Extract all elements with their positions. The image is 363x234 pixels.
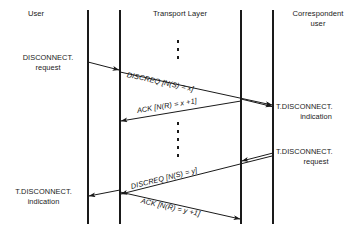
- column-header-user: User: [8, 9, 64, 18]
- arrow-discreq-y: [121, 156, 272, 194]
- column-header-correspondent-user-line2: user: [278, 19, 358, 28]
- primitive-t-disconnect-indication-right-line2: indication: [276, 112, 356, 121]
- ellipsis-middle: [177, 122, 180, 157]
- primitive-t-disconnect-request-right-line2: request: [276, 157, 356, 166]
- primitive-disconnect-request-line2: request: [10, 63, 86, 72]
- arrow-t-disconnect-indication-left: [89, 190, 120, 196]
- column-header-transport-layer: Transport Layer: [140, 9, 220, 18]
- arrow-disconnect-request: [88, 62, 119, 70]
- primitive-t-disconnect-indication-right-line1: T.DISCONNECT.: [276, 102, 333, 111]
- primitive-t-disconnect-indication-left-line2: indication: [1, 197, 86, 206]
- arrow-t-disconnect-indication: [241, 99, 272, 107]
- primitive-t-disconnect-request-right-line1: T.DISCONNECT.: [276, 147, 333, 156]
- column-header-correspondent-user-line1: Correspondent: [278, 9, 358, 18]
- sequence-diagram: User Transport Layer Correspondent user …: [0, 0, 363, 234]
- ellipsis-top: [177, 40, 180, 59]
- primitive-t-disconnect-indication-left-line1: T.DISCONNECT.: [1, 187, 86, 196]
- primitive-disconnect-request-line1: DISCONNECT.: [10, 53, 86, 62]
